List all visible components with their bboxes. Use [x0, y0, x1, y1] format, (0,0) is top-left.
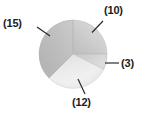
- pie-label-12: (12): [72, 97, 91, 108]
- pie-rim-shading: [39, 20, 107, 88]
- pie-label-10: (10): [104, 5, 123, 16]
- pie-chart-figure: (10) (15) (3) (12): [0, 0, 145, 115]
- pie-label-3: (3): [121, 58, 134, 69]
- pie-label-15: (15): [3, 18, 22, 29]
